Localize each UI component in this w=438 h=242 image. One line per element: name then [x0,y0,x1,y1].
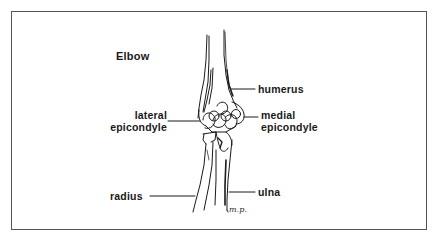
label-medial-epicondyle-line1: medial [261,109,295,121]
label-lateral-epicondyle-line1: lateral [101,109,167,121]
diagram-title: Elbow [116,50,149,62]
label-humerus: humerus [258,83,304,95]
artist-signature: m.p. [229,205,247,214]
elbow-bone-illustration [0,0,438,242]
diagram-canvas: Elbow humerus lateral epicondyle medial … [0,0,438,242]
label-lateral-epicondyle-line2: epicondyle [101,121,167,133]
label-medial-epicondyle-line2: epicondyle [261,121,318,133]
label-ulna: ulna [258,186,280,198]
label-radius: radius [110,190,143,202]
